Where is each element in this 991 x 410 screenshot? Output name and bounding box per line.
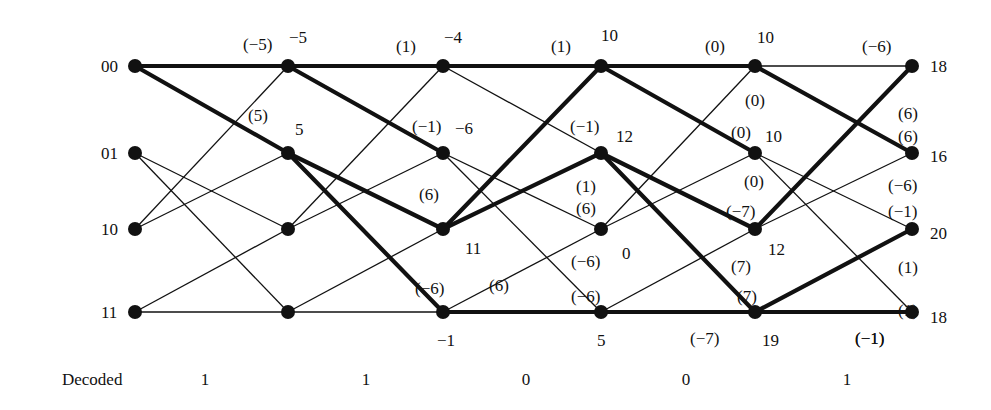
branch-metric: (1) bbox=[396, 38, 416, 55]
trellis-node bbox=[436, 222, 450, 236]
branch-metric: (7) bbox=[737, 288, 757, 305]
survivor-path-edge bbox=[288, 66, 443, 153]
branch-metric: (6) bbox=[489, 277, 509, 294]
branch-metric: (0) bbox=[731, 124, 751, 141]
branch-metric: (−1) bbox=[855, 330, 884, 347]
trellis-node bbox=[436, 59, 450, 73]
decoded-label: Decoded bbox=[62, 371, 122, 388]
trellis-node bbox=[281, 305, 295, 319]
path-metric: −4 bbox=[444, 29, 462, 46]
branch-metric: (6) bbox=[898, 128, 918, 145]
path-metric: 0 bbox=[622, 245, 631, 262]
branch-metric: (6) bbox=[576, 200, 596, 217]
branch-metric: (1) bbox=[551, 38, 571, 55]
trellis-node bbox=[748, 305, 762, 319]
path-metric: 11 bbox=[465, 240, 481, 257]
branch-metric: (5) bbox=[248, 107, 268, 124]
branch-metric: (−6) bbox=[888, 177, 917, 194]
branch-metric: (6) bbox=[419, 186, 439, 203]
trellis-edge bbox=[135, 66, 288, 229]
trellis-node bbox=[281, 222, 295, 236]
decoded-bit: 0 bbox=[522, 371, 531, 388]
trellis-node bbox=[436, 305, 450, 319]
trellis-edge bbox=[135, 229, 288, 312]
branch-metric: (6) bbox=[898, 105, 918, 122]
trellis-edge bbox=[288, 229, 443, 312]
path-metric: 12 bbox=[616, 128, 633, 145]
branch-metric: (7) bbox=[731, 258, 751, 275]
trellis-node bbox=[128, 146, 142, 160]
trellis-node bbox=[594, 59, 608, 73]
path-metric: 5 bbox=[597, 332, 606, 349]
decoded-bit: 1 bbox=[201, 371, 210, 388]
state-label: 11 bbox=[101, 304, 117, 321]
path-metric: 10 bbox=[757, 29, 774, 46]
path-metric: 10 bbox=[765, 128, 782, 145]
trellis-node bbox=[128, 305, 142, 319]
branch-metric: (−1) bbox=[888, 203, 917, 220]
branch-metric: (−6) bbox=[415, 280, 444, 297]
branch-metric: (−6) bbox=[571, 288, 600, 305]
trellis-graph bbox=[0, 0, 991, 410]
path-metric: 20 bbox=[930, 225, 947, 242]
trellis-edge bbox=[443, 66, 601, 153]
survivor-path-edge bbox=[601, 153, 755, 312]
trellis-node bbox=[748, 146, 762, 160]
path-metric: 18 bbox=[930, 58, 947, 75]
trellis-node bbox=[281, 59, 295, 73]
trellis-node bbox=[594, 222, 608, 236]
branch-metric: (0) bbox=[745, 92, 765, 109]
branch-metric: (−6) bbox=[862, 38, 891, 55]
path-metric: 5 bbox=[295, 121, 304, 138]
path-metric: −1 bbox=[437, 332, 455, 349]
path-metric: 16 bbox=[930, 148, 947, 165]
trellis-node bbox=[281, 146, 295, 160]
trellis-node bbox=[128, 222, 142, 236]
path-metric: 12 bbox=[768, 241, 785, 258]
branch-metric: (1) bbox=[898, 302, 918, 319]
branch-metric: (−5) bbox=[243, 36, 272, 53]
path-metric: −5 bbox=[289, 29, 307, 46]
trellis-node bbox=[436, 146, 450, 160]
state-label: 01 bbox=[101, 145, 118, 162]
branch-metric: (−1) bbox=[412, 118, 441, 135]
branch-metric: (−7) bbox=[726, 203, 755, 220]
trellis-node bbox=[905, 59, 919, 73]
path-metric: −6 bbox=[455, 120, 473, 137]
decoded-bit: 0 bbox=[682, 371, 691, 388]
trellis-node bbox=[594, 305, 608, 319]
trellis-node bbox=[905, 222, 919, 236]
branch-metric: (0) bbox=[705, 38, 725, 55]
trellis-node bbox=[128, 59, 142, 73]
trellis-edge bbox=[135, 153, 288, 312]
state-label: 10 bbox=[101, 221, 118, 238]
branch-metric: (−7) bbox=[690, 330, 719, 347]
decoded-bit: 1 bbox=[843, 371, 852, 388]
trellis-node bbox=[905, 146, 919, 160]
state-label: 00 bbox=[101, 58, 118, 75]
trellis-node bbox=[594, 146, 608, 160]
trellis-edge bbox=[288, 66, 443, 229]
path-metric: 18 bbox=[930, 309, 947, 326]
branch-metric: (−6) bbox=[571, 253, 600, 270]
branch-metric: (1) bbox=[576, 178, 596, 195]
branch-metric: (0) bbox=[744, 173, 764, 190]
branch-metric: (1) bbox=[898, 259, 918, 276]
path-metric: 19 bbox=[762, 332, 779, 349]
edge-group-thick bbox=[135, 66, 912, 312]
path-metric: 10 bbox=[601, 27, 618, 44]
branch-metric: (−1) bbox=[570, 118, 599, 135]
trellis-node bbox=[748, 59, 762, 73]
decoded-bit: 1 bbox=[362, 371, 371, 388]
trellis-node bbox=[748, 222, 762, 236]
